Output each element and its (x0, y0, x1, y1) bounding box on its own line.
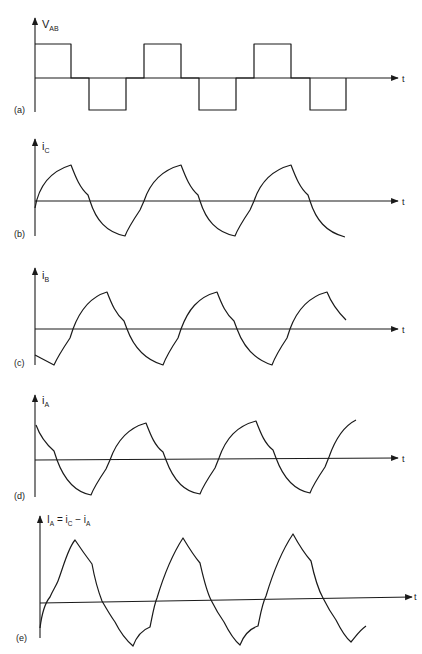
y-label-b: iC (42, 140, 50, 154)
x-label-t-b: t (402, 197, 405, 207)
panel-b-ic: iC t (b) (14, 139, 405, 239)
panel-a-vab: VAB t (a) (14, 18, 405, 115)
ia-total-waveform (40, 534, 366, 646)
panel-label-c: (c) (14, 358, 25, 368)
panel-e-ia-total: IA = iC − iA t (e) (16, 514, 417, 646)
x-label-t-a: t (402, 74, 405, 84)
panel-d-ia: iA t (d) (14, 394, 405, 501)
x-label-t-e: t (414, 592, 417, 602)
ia-waveform (36, 420, 356, 495)
y-label-a: VAB (42, 18, 59, 32)
panel-label-b: (b) (14, 229, 25, 239)
panel-label-a: (a) (14, 105, 25, 115)
panel-label-d: (d) (14, 491, 25, 501)
x-axis-d (35, 458, 398, 460)
x-label-t-d: t (402, 454, 405, 464)
waveform-figure: VAB t (a) iC t (b) iB t (c) iA t (d) IA … (0, 0, 422, 654)
x-label-t-c: t (402, 325, 405, 335)
panel-c-ib: iB t (c) (14, 268, 405, 368)
vab-waveform (35, 44, 346, 110)
x-axis-e (40, 597, 412, 603)
panel-label-e: (e) (16, 633, 27, 643)
y-label-c: iB (42, 269, 49, 283)
y-label-d: iA (42, 394, 49, 408)
y-label-e: IA = iC − iA (47, 514, 91, 527)
